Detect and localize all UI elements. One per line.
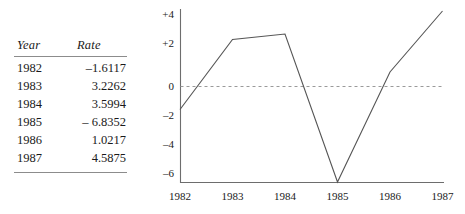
rate-series-line xyxy=(180,11,443,182)
xtick-label: 1984 xyxy=(274,190,297,202)
column-header-year: Year xyxy=(17,38,40,53)
xtick-label: 1987 xyxy=(432,190,455,202)
table-row: 1987 4.5875 xyxy=(14,151,128,169)
table-header-row: Year Rate xyxy=(14,36,128,56)
table-row: 1982 –1.6117 xyxy=(14,61,128,79)
cell-rate: –1.6117 xyxy=(14,61,126,76)
cell-rate: 4.5875 xyxy=(14,151,126,166)
cell-rate: 3.2262 xyxy=(14,79,126,94)
table-row: 1983 3.2262 xyxy=(14,79,128,97)
xtick-label: 1983 xyxy=(222,190,245,202)
cell-rate: 3.5994 xyxy=(14,97,126,112)
ytick-label: –2 xyxy=(162,109,174,121)
table-body: 1982 –1.6117 1983 3.2262 1984 3.5994 198… xyxy=(14,61,128,169)
table-row: 1984 3.5994 xyxy=(14,97,128,115)
table-rule-bottom xyxy=(14,172,127,173)
y-axis-tick-labels: +4 +2 0 –2 –4 –6 xyxy=(162,8,175,179)
table-row: 1985 – 6.8352 xyxy=(14,115,128,133)
table-rule-top xyxy=(14,56,127,57)
rate-table: Year Rate 1982 –1.6117 1983 3.2262 1984 … xyxy=(14,36,128,56)
ytick-label: +4 xyxy=(162,8,174,20)
cell-rate: 1.0217 xyxy=(14,133,126,148)
xtick-label: 1982 xyxy=(169,190,191,202)
chart-axes xyxy=(181,9,445,183)
table-row: 1986 1.0217 xyxy=(14,133,128,151)
rate-line-chart: +4 +2 0 –2 –4 –6 1982 1983 1984 1985 198… xyxy=(150,0,465,214)
ytick-label: 0 xyxy=(169,80,175,92)
ytick-label: –6 xyxy=(162,167,175,179)
xtick-label: 1985 xyxy=(327,190,350,202)
xtick-label: 1986 xyxy=(379,190,402,202)
ytick-label: +2 xyxy=(162,37,174,49)
cell-rate: – 6.8352 xyxy=(14,115,126,130)
x-axis-tick-labels: 1982 1983 1984 1985 1986 1987 xyxy=(169,190,454,202)
column-header-rate: Rate xyxy=(77,38,101,53)
ytick-label: –4 xyxy=(162,138,175,150)
figure-container: Year Rate 1982 –1.6117 1983 3.2262 1984 … xyxy=(0,0,465,214)
